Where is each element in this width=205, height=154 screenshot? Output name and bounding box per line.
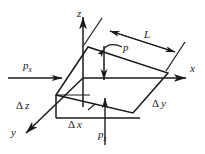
pz-base: p xyxy=(98,128,104,140)
delta-y-label: Δy xyxy=(152,98,166,109)
px-subscript: x xyxy=(29,65,32,74)
pz-label: pz xyxy=(98,129,106,140)
x-axis-label: x xyxy=(190,63,195,74)
delta-x-symbol: Δ xyxy=(68,118,75,130)
px-base: p xyxy=(23,59,29,71)
px-label: px xyxy=(23,60,32,71)
p-leader-curve xyxy=(104,45,122,49)
delta-z-var: z xyxy=(25,99,29,111)
length-dimension-line-reverse xyxy=(110,31,175,52)
delta-z-label: Δz xyxy=(16,100,29,111)
z-axis-label: z xyxy=(77,8,81,19)
delta-x-leader-tick xyxy=(88,104,95,110)
delta-z-symbol: Δ xyxy=(16,99,23,111)
figure-container: z x y L p px pz Δz Δx Δy xyxy=(0,0,205,154)
delta-y-symbol: Δ xyxy=(152,97,159,109)
delta-y-var: y xyxy=(161,97,166,109)
pz-subscript: z xyxy=(104,134,107,143)
delta-x-label: Δx xyxy=(68,119,82,130)
y-axis-label: y xyxy=(11,127,16,138)
p-label: p xyxy=(123,42,129,53)
length-label: L xyxy=(144,29,150,40)
length-extension-right xyxy=(166,42,185,71)
length-extension-left xyxy=(84,18,102,45)
delta-x-var: x xyxy=(77,118,82,130)
